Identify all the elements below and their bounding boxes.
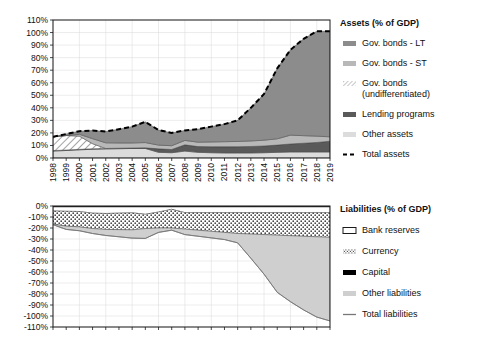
- y-tick-label: 10%: [31, 140, 48, 150]
- liabilities-chart: 0%-10%-20%-30%-40%-50%-60%-70%-80%-90%-1…: [23, 201, 330, 332]
- x-tick-label: 2013: [246, 163, 256, 182]
- y-tick-label: -30%: [28, 234, 48, 244]
- legend-item-label: Other assets: [362, 129, 414, 139]
- x-tick-label: 2014: [259, 163, 269, 182]
- y-tick-label: -110%: [24, 322, 48, 332]
- x-tick-label: 2003: [114, 163, 124, 182]
- legend-swatch: [343, 61, 356, 66]
- y-tick-label: 40%: [31, 103, 48, 113]
- x-tick-label: 2000: [74, 163, 84, 182]
- liabilities-legend: Liabilities (% of GDP)Bank reservesCurre…: [340, 204, 431, 319]
- x-tick-label: 2018: [312, 163, 322, 182]
- stacked-areas: [53, 206, 330, 321]
- x-tick-label: 2017: [299, 163, 309, 182]
- y-tick-label: -100%: [23, 311, 48, 321]
- x-tick-label: 1999: [61, 163, 71, 182]
- x-tick-label: 2015: [272, 163, 282, 182]
- legend-title: Assets (% of GDP): [340, 18, 419, 28]
- legend-item-label: Capital: [362, 267, 390, 277]
- y-tick-label: -90%: [28, 300, 48, 310]
- y-tick-label: -10%: [28, 212, 48, 222]
- y-tick-label: 70%: [31, 65, 48, 75]
- legend-item-label: Other liabilities: [362, 288, 422, 298]
- legend-item-label: Lending programs: [362, 109, 435, 119]
- x-tick-label: 2007: [167, 163, 177, 182]
- legend-item-label: Gov. bonds - LT: [362, 38, 426, 48]
- assets-legend: Assets (% of GDP)Gov. bonds - LTGov. bon…: [340, 18, 435, 159]
- y-tick-label: -80%: [28, 289, 48, 299]
- assets-chart: 0%10%20%30%40%50%60%70%80%90%100%110%199…: [26, 15, 335, 182]
- x-tick-label: 2010: [206, 163, 216, 182]
- legend-item-label: (undifferentiated): [362, 89, 430, 99]
- legend-title: Liabilities (% of GDP): [340, 204, 431, 214]
- x-tick-label: 2004: [127, 163, 137, 182]
- legend-item-label: Gov. bonds - ST: [362, 58, 427, 68]
- y-tick-label: -60%: [28, 267, 48, 277]
- legend-swatch: [343, 270, 356, 275]
- legend-swatch: [343, 291, 356, 296]
- x-tick-label: 2005: [140, 163, 150, 182]
- y-tick-label: 20%: [31, 128, 48, 138]
- x-tick-label: 2009: [193, 163, 203, 182]
- y-tick-label: 60%: [31, 78, 48, 88]
- x-tick-label: 2011: [219, 163, 229, 182]
- y-tick-label: -20%: [28, 223, 48, 233]
- x-tick-label: 2001: [88, 163, 98, 182]
- y-tick-label: 0%: [36, 153, 49, 163]
- y-tick-label: 80%: [31, 53, 48, 63]
- y-tick-label: 110%: [27, 15, 49, 25]
- x-tick-label: 2012: [233, 163, 243, 182]
- legend-swatch: [343, 112, 356, 117]
- area-gov_bonds_lt: [53, 31, 330, 145]
- y-tick-label: -50%: [28, 256, 48, 266]
- y-tick-label: -70%: [28, 278, 48, 288]
- y-tick-label: 50%: [31, 90, 48, 100]
- legend-item-label: Total liabilities: [362, 309, 418, 319]
- x-tick-label: 2006: [154, 163, 164, 182]
- legend-item-label: Bank reserves: [362, 225, 420, 235]
- y-tick-label: 30%: [31, 115, 48, 125]
- stacked-areas: [53, 31, 330, 158]
- x-tick-label: 2008: [180, 163, 190, 182]
- y-tick-label: 90%: [31, 40, 48, 50]
- area-other_liabilities: [53, 224, 330, 321]
- legend-swatch: [343, 81, 356, 86]
- legend-swatch: [343, 132, 356, 137]
- x-tick-label: 1998: [48, 163, 58, 182]
- legend-swatch: [343, 41, 356, 46]
- y-tick-label: -40%: [28, 245, 48, 255]
- y-tick-label: 100%: [26, 28, 48, 38]
- legend-swatch: [343, 249, 356, 254]
- x-tick-label: 2019: [325, 163, 335, 182]
- legend-item-label: Gov. bonds: [362, 78, 408, 88]
- legend-swatch: [343, 228, 356, 234]
- legend-item-label: Currency: [362, 246, 399, 256]
- legend-item-label: Total assets: [362, 149, 410, 159]
- central-bank-balance-sheet-figure: 0%10%20%30%40%50%60%70%80%90%100%110%199…: [0, 0, 488, 339]
- figure-root: 0%10%20%30%40%50%60%70%80%90%100%110%199…: [0, 0, 488, 339]
- y-tick-label: 0%: [36, 201, 49, 211]
- x-tick-label: 2016: [285, 163, 295, 182]
- x-tick-label: 2002: [101, 163, 111, 182]
